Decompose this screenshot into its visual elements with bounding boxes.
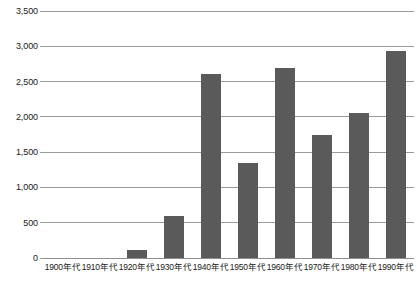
y-axis-tick-label: 0 (0, 253, 38, 263)
y-axis-tick-label: 3,500 (0, 6, 38, 16)
plot-area (44, 11, 414, 258)
bar-chart: 05001,0001,5002,0002,5003,0003,500 1900年… (0, 0, 417, 285)
y-axis-tick-label: 1,000 (0, 182, 38, 192)
y-axis-tick-label: 2,500 (0, 77, 38, 87)
gridline-3000 (44, 46, 414, 47)
x-axis-tick-label: 1920年代 (118, 260, 155, 272)
bar[interactable] (238, 163, 258, 258)
bar[interactable] (312, 135, 332, 258)
y-tick-1000 (40, 187, 44, 188)
bar[interactable] (201, 74, 221, 258)
y-tick-3000 (40, 46, 44, 47)
gridline-3500 (44, 11, 414, 12)
x-axis-tick-label: 1980年代 (340, 260, 377, 272)
y-axis-tick-label: 2,000 (0, 112, 38, 122)
y-tick-2500 (40, 81, 44, 82)
x-axis-tick-label: 1950年代 (229, 260, 266, 272)
y-tick-0 (40, 258, 44, 259)
y-tick-3500 (40, 11, 44, 12)
x-axis-tick-label: 1940年代 (192, 260, 229, 272)
gridline-2500 (44, 81, 414, 82)
y-axis-tick-label: 500 (0, 218, 38, 228)
x-axis-tick-label: 1910年代 (81, 260, 118, 272)
bar[interactable] (275, 68, 295, 258)
bar[interactable] (349, 113, 369, 258)
x-axis-tick-label: 1930年代 (155, 260, 192, 272)
x-axis-tick-label: 1990年代 (377, 260, 414, 272)
x-axis-tick-label: 1900年代 (44, 260, 81, 272)
y-axis-tick-label: 1,500 (0, 147, 38, 157)
y-axis-tick-label: 3,000 (0, 41, 38, 51)
y-tick-1500 (40, 152, 44, 153)
y-tick-2000 (40, 116, 44, 117)
bar[interactable] (127, 250, 147, 258)
y-axis-labels: 05001,0001,5002,0002,5003,0003,500 (0, 11, 38, 258)
x-axis-tick-label: 1960年代 (266, 260, 303, 272)
x-axis-labels: 1900年代1910年代1920年代1930年代1940年代1950年代1960… (44, 260, 414, 282)
y-tick-500 (40, 222, 44, 223)
x-axis-tick-label: 1970年代 (303, 260, 340, 272)
bar[interactable] (164, 216, 184, 258)
bar[interactable] (386, 51, 406, 258)
